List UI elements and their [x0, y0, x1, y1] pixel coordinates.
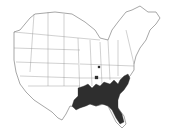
range-map: [0, 0, 176, 140]
country-outline: [14, 6, 160, 128]
range-outlier-kentucky: [95, 76, 98, 79]
range-outlier-midwest: [98, 66, 100, 68]
species-range: [72, 74, 130, 124]
